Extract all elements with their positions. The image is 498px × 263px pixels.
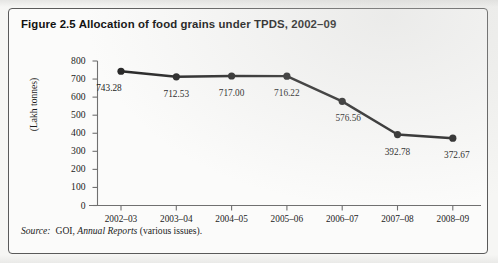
y-axis-tick-label: 600: [56, 92, 86, 102]
source-agency: GOI,: [55, 225, 74, 236]
x-axis-tick-label: 2003–04: [146, 214, 206, 224]
data-point-label: 717.00: [202, 88, 262, 98]
figure-box: Figure 2.5 Allocation of food grains und…: [8, 8, 488, 254]
y-axis-tick-label: 0: [56, 201, 86, 211]
x-axis-tick-label: 2007–08: [368, 214, 428, 224]
y-axis-tick-label: 200: [56, 164, 86, 174]
data-point-label: 716.22: [257, 88, 317, 98]
x-axis-tick-label: 2005–06: [257, 214, 317, 224]
y-axis-tick-label: 800: [56, 56, 86, 66]
x-axis-tick-label: 2002–03: [91, 214, 151, 224]
y-axis-tick-label: 500: [56, 110, 86, 120]
x-axis-ticks: [121, 206, 453, 211]
y-axis-tick-label: 100: [56, 182, 86, 192]
data-point-marker: [394, 131, 401, 138]
x-axis-tick-label: 2008–09: [423, 214, 483, 224]
y-axis-tick-label: 300: [56, 146, 86, 156]
x-axis-tick-label: 2004–05: [202, 214, 262, 224]
x-axis-tick-label: 2006–07: [312, 214, 372, 224]
data-series-line: [121, 71, 453, 138]
page-title: Figure 2.5 Allocation of food grains und…: [21, 18, 336, 30]
data-point-marker: [283, 73, 290, 80]
y-axis-tick-label: 400: [56, 128, 86, 138]
source-publication: Annual Reports: [77, 225, 137, 236]
data-point-label: 576.56: [318, 113, 378, 123]
chart-axes: [89, 61, 481, 206]
data-point-marker: [228, 72, 235, 79]
data-point-marker: [339, 98, 346, 105]
source-note: Source:GOI, Annual Reports (various issu…: [21, 225, 202, 236]
data-point-markers: [117, 68, 456, 142]
chart-plot-area: (Lakh tonnes) 8007006005004003002001000 …: [9, 39, 489, 219]
data-point-marker: [449, 135, 456, 142]
data-point-label: 743.28: [79, 83, 139, 93]
data-point-label: 372.67: [427, 150, 487, 160]
source-suffix: (various issues).: [140, 225, 202, 236]
data-point-label: 712.53: [146, 89, 206, 99]
data-point-marker: [117, 68, 124, 75]
data-point-marker: [173, 73, 180, 80]
data-point-label: 392.78: [368, 147, 428, 157]
source-label: Source:: [21, 225, 50, 236]
scanned-page: Figure 2.5 Allocation of food grains und…: [0, 0, 498, 263]
